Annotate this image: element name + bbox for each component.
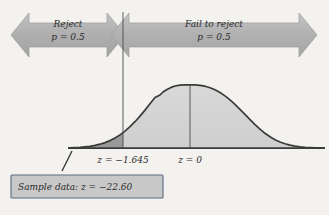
- fail-to-reject-arrow-title: Fail to reject: [184, 19, 243, 29]
- statistics-hypothesis-test-figure: Reject p = 0.5 Fail to reject p = 0.5 z …: [0, 0, 329, 215]
- sample-data-text: Sample data: z = −22.60: [18, 182, 132, 192]
- critical-value-label: z = −1.645: [96, 155, 149, 165]
- fail-to-reject-arrow-probability: p = 0.5: [197, 32, 231, 42]
- sample-data-callout: Sample data: z = −22.60: [11, 175, 163, 198]
- reject-arrow-probability: p = 0.5: [51, 32, 85, 42]
- reject-arrow-title: Reject: [53, 19, 83, 29]
- mean-label: z = 0: [177, 155, 202, 165]
